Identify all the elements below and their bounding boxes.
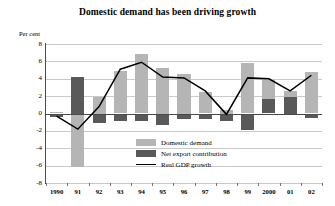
chart-figure: Domestic demand has been driving growth … bbox=[0, 0, 335, 206]
legend-item: Real GDP growth bbox=[136, 159, 227, 170]
x-axis-tick-mark bbox=[195, 183, 196, 186]
x-axis-tick-mark bbox=[152, 183, 153, 186]
y-axis-tick-label: -8 bbox=[18, 179, 42, 187]
y-axis-tick-label: 6 bbox=[18, 57, 42, 65]
x-axis-tick-mark bbox=[216, 183, 217, 186]
x-axis-tick-mark bbox=[237, 183, 238, 186]
x-axis-tick-mark bbox=[46, 183, 47, 186]
legend-label: Net export contribution bbox=[161, 150, 227, 158]
x-axis-tick-mark bbox=[258, 183, 259, 186]
x-axis-tick-mark bbox=[131, 183, 132, 186]
y-axis-tick-label: -2 bbox=[18, 126, 42, 134]
x-axis-tick-mark bbox=[89, 183, 90, 186]
y-axis-unit-label: Per cent bbox=[19, 30, 40, 37]
legend-item: Net export contribution bbox=[136, 148, 227, 159]
x-axis-tick-mark bbox=[322, 183, 323, 186]
legend: Domestic demandNet export contributionRe… bbox=[136, 137, 227, 170]
y-axis-tick-label: 8 bbox=[18, 40, 42, 48]
legend-item: Domestic demand bbox=[136, 137, 227, 148]
x-axis-tick-mark bbox=[173, 183, 174, 186]
x-axis-tick-mark bbox=[110, 183, 111, 186]
y-axis-tick-label: 4 bbox=[18, 74, 42, 82]
gridline bbox=[46, 183, 322, 184]
page-title: Domestic demand has been driving growth bbox=[0, 7, 335, 17]
legend-label: Real GDP growth bbox=[161, 161, 211, 169]
y-axis-tick-label: -4 bbox=[18, 144, 42, 152]
legend-swatch-black-line bbox=[136, 164, 156, 165]
x-axis-tick-mark bbox=[67, 183, 68, 186]
y-axis-tick-label: 2 bbox=[18, 92, 42, 100]
x-axis-tick-label: 02 bbox=[297, 188, 325, 195]
x-axis-tick-mark bbox=[280, 183, 281, 186]
legend-swatch-light-gray-box bbox=[136, 139, 156, 146]
legend-label: Domestic demand bbox=[161, 139, 212, 147]
x-axis-tick-mark bbox=[301, 183, 302, 186]
y-axis-tick-label: -6 bbox=[18, 161, 42, 169]
y-axis-tick-label: 0 bbox=[18, 109, 42, 117]
legend-swatch-dark-gray-box bbox=[136, 150, 156, 157]
